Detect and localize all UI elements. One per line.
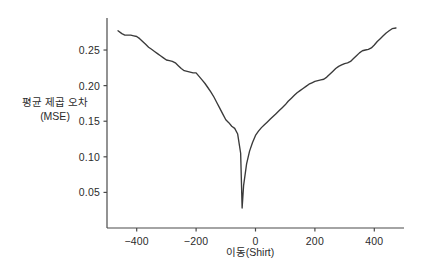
y-tick-label: 0.05 <box>55 186 100 198</box>
y-tick-label: 0.25 <box>55 44 100 56</box>
chart-plot-area <box>0 0 421 271</box>
chart-figure: 0.050.100.150.200.25 −400−2000200400 평균 … <box>0 0 421 271</box>
mse-curve <box>118 28 396 208</box>
x-tick-label: 200 <box>306 235 324 247</box>
y-axis-title-line1: 평균 제곱 오차 <box>22 96 88 108</box>
x-tick-label: −400 <box>124 235 148 247</box>
x-tick-label: 400 <box>365 235 383 247</box>
y-axis-title: 평균 제곱 오차 (MSE) <box>10 95 100 123</box>
y-axis-title-line2: (MSE) <box>10 109 100 123</box>
y-tick-label: 0.20 <box>55 80 100 92</box>
x-tick-label: −200 <box>184 235 208 247</box>
y-tick-label: 0.10 <box>55 151 100 163</box>
x-axis-title: 이동(Shirt) <box>226 244 275 259</box>
